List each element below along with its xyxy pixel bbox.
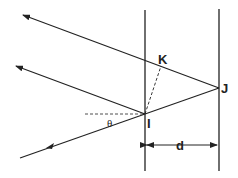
label-J: J	[221, 81, 228, 96]
incident-arrow-icon	[46, 143, 54, 149]
label-d: d	[176, 138, 184, 153]
reflected-ray-I	[16, 66, 145, 114]
refracted-ray-IJ	[145, 88, 219, 114]
label-K: K	[158, 52, 168, 67]
incident-ray	[20, 114, 145, 158]
label-I: I	[147, 116, 151, 131]
reflected-ray-J	[23, 15, 219, 88]
interference-diagram: K J I θ d	[0, 0, 238, 178]
IK-dashed-line	[145, 66, 161, 114]
d-left-arrow-icon	[146, 142, 154, 148]
label-theta: θ	[107, 117, 112, 129]
